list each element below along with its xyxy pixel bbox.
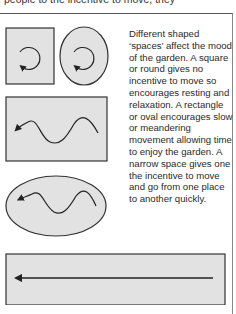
round-space-diagram <box>60 27 108 85</box>
narrow-space-diagram <box>6 254 225 305</box>
rectangle-space-diagram <box>6 97 107 161</box>
square-space-diagram <box>6 28 54 84</box>
oval-space-diagram <box>6 176 106 236</box>
caption-text: Different shaped ‘spaces’ affect the moo… <box>129 28 233 205</box>
